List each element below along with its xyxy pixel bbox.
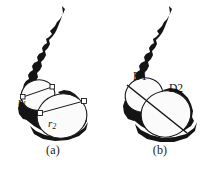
radius-marker-r2-end (82, 99, 87, 104)
radius-label-r2-subscript: 2 (53, 122, 57, 131)
radius-marker-r1-end (50, 85, 55, 90)
panel-a: r1 r2 (a) (0, 0, 106, 171)
radius-marker-r2-start (38, 111, 43, 116)
radius-label-r2: r2 (48, 118, 56, 131)
panel-b-caption: (b) (107, 143, 213, 158)
diameter-label-d2: D2 (169, 83, 183, 95)
radius-label-r1-subscript: 1 (23, 100, 27, 109)
radius-label-r1: r1 (18, 96, 26, 109)
diameter-label-d1: D1 (133, 71, 147, 83)
panel-b: D1 D2 (b) (107, 0, 213, 171)
panel-b-graphic (107, 0, 213, 145)
panel-a-caption: (a) (0, 143, 106, 158)
figure-container: r1 r2 (a) D1 D2 (b) (0, 0, 213, 171)
